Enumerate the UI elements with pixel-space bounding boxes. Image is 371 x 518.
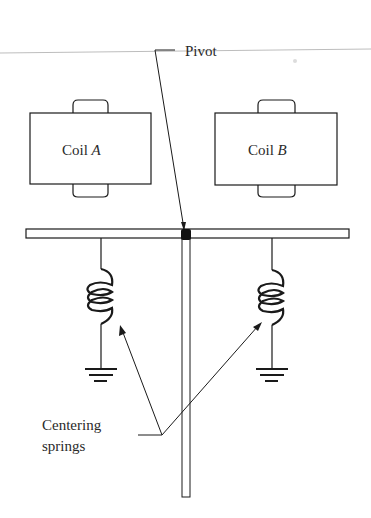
springs-callout: Centering springs	[42, 322, 262, 454]
coil-a: Coil A	[30, 100, 151, 197]
coil-a-bottom-tab	[73, 184, 108, 197]
coil-b-label-prefix: Coil	[248, 142, 278, 158]
coil-a-label: Coil A	[62, 142, 102, 158]
pivot-leader-line	[155, 50, 184, 229]
pivot-callout: Pivot	[155, 43, 218, 231]
spring-left	[87, 238, 112, 369]
coil-a-label-letter: A	[91, 142, 102, 158]
springs-label-line1: Centering	[42, 417, 102, 433]
coil-b-bottom-tab	[258, 185, 295, 197]
ground-right-icon	[256, 369, 288, 381]
scan-speck	[293, 59, 297, 63]
springs-label-line2: springs	[42, 438, 86, 454]
springs-arrow-left-shaft	[122, 330, 162, 435]
springs-arrow-left-head	[119, 325, 126, 336]
coil-b-top-tab	[258, 100, 295, 113]
coil-b: Coil B	[215, 100, 337, 197]
spring-left-coil	[87, 269, 112, 324]
pivot-point	[181, 229, 191, 240]
springs-arrow-right-shaft	[162, 326, 258, 435]
ground-left-icon	[85, 369, 117, 381]
coil-b-label: Coil B	[248, 142, 287, 158]
spring-right	[258, 238, 283, 369]
coil-a-label-prefix: Coil	[62, 142, 92, 158]
pointer-rod	[182, 238, 190, 497]
pivot-label: Pivot	[185, 43, 218, 59]
coil-b-label-letter: B	[278, 142, 287, 158]
coil-a-top-tab	[73, 100, 108, 113]
moving-iron-diagram: Pivot Coil A Coil B	[0, 0, 371, 518]
spring-right-coil	[258, 270, 283, 325]
